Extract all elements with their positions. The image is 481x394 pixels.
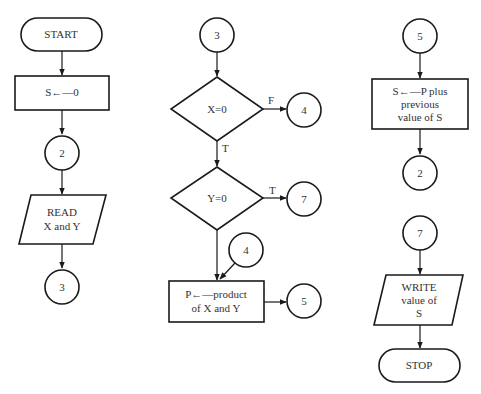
node-stop-terminal: STOP xyxy=(379,349,460,382)
sum-label-line1: S←—P plus xyxy=(393,85,448,97)
connector-4-right: 4 xyxy=(287,93,321,127)
node-sum-process: S←—P plus previous value of S xyxy=(372,79,468,129)
node-decision-x: X=0 xyxy=(171,77,263,141)
init-label: S←—0 xyxy=(45,86,79,98)
connector-5a-label: 5 xyxy=(301,295,307,307)
connector-5b-label: 5 xyxy=(417,30,423,42)
connector-5-right: 5 xyxy=(287,284,321,318)
sum-label-line3: value of S xyxy=(398,111,443,123)
connector-2b-label: 2 xyxy=(417,167,423,179)
node-product-process: P←—product of X and Y xyxy=(169,281,264,322)
edge-label-x-false: F xyxy=(268,94,274,106)
read-label-line2: X and Y xyxy=(44,220,81,232)
read-label-line1: READ xyxy=(47,206,77,218)
connector-7b-label: 7 xyxy=(417,227,423,239)
connector-7a-label: 7 xyxy=(301,193,307,205)
connector-7-col3: 7 xyxy=(403,216,437,250)
connector-2-col1: 2 xyxy=(45,136,79,170)
connector-4-entry: 4 xyxy=(229,233,263,267)
connector-3-col2: 3 xyxy=(200,18,234,52)
connector-5-col3: 5 xyxy=(403,19,437,53)
node-start-terminal: START xyxy=(21,18,102,51)
flowchart-canvas: START S←—0 2 READ X and Y 3 3 X=0 F 4 T xyxy=(0,0,481,394)
connector-4b-label: 4 xyxy=(243,244,249,256)
stop-label: STOP xyxy=(406,359,433,371)
connector-2-col3: 2 xyxy=(403,156,437,190)
write-label-line1: WRITE xyxy=(402,281,437,293)
arrow-conn4-to-prod xyxy=(220,263,235,279)
node-decision-y: Y=0 xyxy=(171,167,263,230)
connector-7-right: 7 xyxy=(287,182,321,216)
edge-label-y-true: T xyxy=(269,184,276,196)
connector-3-col1: 3 xyxy=(45,270,79,304)
start-label: START xyxy=(44,28,78,40)
node-write-io: WRITE value of S xyxy=(374,275,463,325)
decision-x-label: X=0 xyxy=(207,103,227,115)
product-label-line2: of X and Y xyxy=(192,302,241,314)
product-label-line1: P←—product xyxy=(185,288,247,300)
connector-2-label: 2 xyxy=(59,147,65,159)
connector-4a-label: 4 xyxy=(301,104,307,116)
connector-3-label: 3 xyxy=(59,281,65,293)
connector-3b-label: 3 xyxy=(214,29,220,41)
write-label-line3: S xyxy=(416,307,422,319)
write-label-line2: value of xyxy=(401,294,437,306)
sum-label-line2: previous xyxy=(401,98,439,110)
node-read-io: READ X and Y xyxy=(19,195,106,244)
decision-y-label: Y=0 xyxy=(207,192,227,204)
node-init-process: S←—0 xyxy=(15,76,109,110)
edge-label-x-true: T xyxy=(222,142,229,154)
